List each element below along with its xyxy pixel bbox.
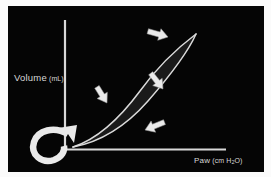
- loop-fill: [73, 34, 196, 147]
- pressure-volume-plot: [8, 6, 264, 172]
- plot-panel: Volume (mL) Paw (cm H2O): [8, 6, 264, 172]
- y-axis-unit: (mL): [47, 75, 64, 82]
- arrow-cycle-origin: [33, 125, 77, 161]
- x-axis-label: Paw (cm H2O): [194, 156, 243, 165]
- y-axis-label: Volume (mL): [14, 72, 64, 83]
- figure-root: Volume (mL) Paw (cm H2O): [0, 0, 271, 177]
- arrow-inflation-bottom: [143, 117, 167, 136]
- arrow-deflation-top: [146, 25, 169, 42]
- x-axis-label-text: Paw: [194, 156, 210, 165]
- y-axis-label-text: Volume: [14, 72, 47, 83]
- x-axis-unit: (cm H2O): [210, 157, 242, 164]
- arrow-inflation-left: [92, 84, 112, 106]
